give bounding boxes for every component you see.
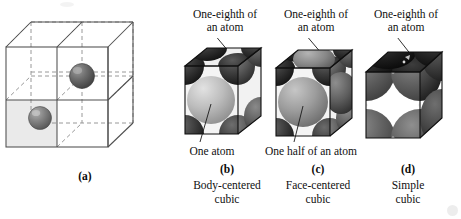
- panel-b-caption-line2: cubic: [215, 193, 240, 205]
- lattice-top-edges: [6, 22, 133, 47]
- panel-d-cube-photo: [360, 38, 455, 146]
- scan-artifact-corner: [447, 205, 458, 216]
- callout-b-top-line2: an atom: [207, 21, 244, 33]
- panel-c-cube-photo: [272, 38, 364, 146]
- callout-b-top-line1: One-eighth of: [193, 8, 257, 20]
- panel-c-caption: Face-centered cubic: [266, 179, 370, 206]
- panel-b-letter: (b): [185, 163, 269, 175]
- panel-d-caption-line1: Simple: [392, 179, 425, 191]
- callout-b-bottom-line1: One atom: [189, 145, 234, 157]
- panel-a-letter: (a): [55, 170, 115, 182]
- crystal-lattice-figure: (a) One-eighth of an atom: [0, 0, 461, 219]
- bcc-svg: [181, 38, 273, 146]
- atom-body-center-front: [29, 107, 52, 130]
- lattice-right-edges: [108, 22, 133, 147]
- panel-c-letter: (c): [276, 163, 360, 175]
- panel-d-letter: (d): [366, 163, 450, 175]
- callout-d-top: One-eighth of an atom: [362, 8, 450, 34]
- fcc-svg: [272, 38, 364, 146]
- callout-c-bottom-line1: One half of an atom: [265, 145, 357, 157]
- callout-d-top-line2: an atom: [388, 21, 425, 33]
- callout-c-bottom: One half of an atom: [242, 145, 380, 158]
- panel-c-caption-line2: cubic: [306, 193, 331, 205]
- callout-c-top: One-eighth of an atom: [272, 8, 360, 34]
- scan-artifact-top: [60, 2, 74, 7]
- sc-svg: [360, 38, 455, 146]
- lattice-svg: [0, 14, 178, 166]
- callout-b-top: One-eighth of an atom: [181, 8, 269, 34]
- panel-b-caption: Body-centered cubic: [175, 179, 279, 206]
- panel-a-lattice-drawing: [0, 14, 178, 166]
- callout-c-top-line2: an atom: [298, 21, 335, 33]
- atom-body-center-rear: [70, 64, 95, 89]
- panel-b-caption-line1: Body-centered: [193, 179, 261, 191]
- panel-c-caption-line1: Face-centered: [286, 179, 350, 191]
- callout-d-top-line1: One-eighth of: [374, 8, 438, 20]
- callout-c-top-line1: One-eighth of: [284, 8, 348, 20]
- panel-b-cube-photo: [181, 38, 273, 146]
- panel-d-caption: Simple cubic: [356, 179, 460, 206]
- panel-d-caption-line2: cubic: [396, 193, 421, 205]
